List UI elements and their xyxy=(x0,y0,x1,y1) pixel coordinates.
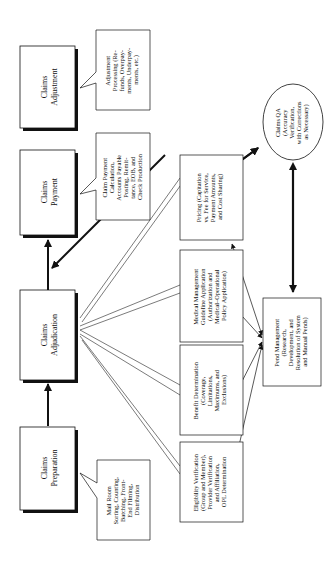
svg-text:ClaimsPayment: ClaimsPayment xyxy=(40,177,59,206)
claims-qa-ellipse: Claims QA (Accuracy Verification, with C… xyxy=(263,84,323,160)
callout-payment: Claim Payment Calculation, Accounts Paya… xyxy=(80,133,150,220)
svg-text:Claim Payment Calculatio: Claim Payment Calculation, Accounts Paya… xyxy=(101,153,143,201)
step-benefit-determination: Benefit Determination (Coverage, Limitat… xyxy=(180,345,243,435)
stage-claims-preparation: ClaimsPreparation xyxy=(20,427,78,513)
callout-preparation: Mail Room Sorting, Counting, Batching, F… xyxy=(80,460,150,540)
adjudication-fan-connectors xyxy=(80,178,183,474)
svg-text:Medical Management Guide: Medical Management Guideline Application… xyxy=(192,267,228,325)
step-eligibility-verification: Eligibility Verification (Group and Memb… xyxy=(180,442,243,522)
step-pricing: Pricing (Capitation vs. Fee for Service,… xyxy=(180,155,243,240)
callout-adjustment: Adjustment Processing (Re- funds, Overpa… xyxy=(80,30,150,110)
pend-management-box: Pend Management (Research, Development, … xyxy=(263,298,321,386)
claims-process-diagram: ClaimsAdjustment ClaimsPayment ClaimsAdj… xyxy=(0,0,330,561)
svg-text:Pricing (Capitation vs.: Pricing (Capitation vs. Fee for Service,… xyxy=(195,171,224,222)
svg-text:Eligibility Verification: Eligibility Verification (Group and Memb… xyxy=(192,452,227,511)
stage-claims-adjustment: ClaimsAdjustment xyxy=(20,46,78,131)
stage-claims-adjudication: ClaimsAdjudication xyxy=(20,290,78,383)
step-medical-management: Medical Management Guideline Application… xyxy=(180,250,243,342)
svg-text:Pend Management (Researc: Pend Management (Research, Development, … xyxy=(273,314,309,371)
stage-claims-payment: ClaimsPayment xyxy=(20,150,78,238)
